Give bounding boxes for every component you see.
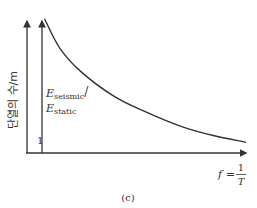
y-axis-label: 단열의 수/m: [7, 71, 20, 129]
reference-value-label: 1: [37, 135, 43, 146]
ratio-top-main: E: [45, 87, 54, 100]
x-label-lhs: f: [217, 168, 224, 181]
ratio-bottom-sub: static: [54, 107, 77, 116]
x-label-denominator: T: [238, 176, 246, 187]
x-label-eq: =: [226, 168, 235, 181]
svg-text:Eseismic/: Eseismic/: [45, 85, 89, 101]
ratio-bottom-main: E: [45, 102, 54, 115]
svg-text:Estatic: Estatic: [45, 102, 77, 116]
diagram-canvas: 단열의 수/m 1 Eseismic/ Estatic f = 1 T (c): [0, 0, 257, 208]
figure-caption: (c): [121, 192, 135, 203]
x-label-numerator: 1: [238, 162, 244, 173]
ratio-top-sub: seismic: [54, 92, 85, 101]
series-curve: [45, 19, 247, 143]
ratio-slash: /: [84, 85, 89, 99]
ratio-label: Eseismic/ Estatic: [45, 85, 89, 116]
x-axis-label: f = 1 T: [217, 162, 246, 187]
